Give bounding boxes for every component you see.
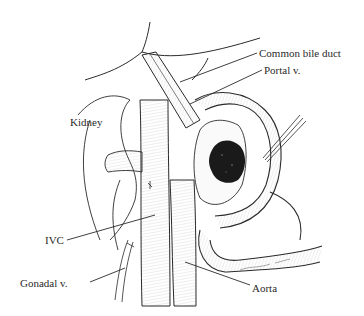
anatomical-diagram: Common bile duct Portal v. Kidney IVC Go… [0, 0, 364, 316]
label-common-bile-duct: Common bile duct [259, 47, 341, 59]
label-aorta: Aorta [252, 282, 277, 294]
liver-edge [85, 22, 260, 80]
ivc [140, 100, 170, 306]
label-kidney: Kidney [70, 116, 102, 128]
label-ivc: IVC [45, 234, 64, 246]
label-portal-vein: Portal v. [264, 64, 301, 76]
aorta [170, 180, 196, 306]
label-gonadal-vein: Gonadal v. [20, 277, 68, 289]
renal-vein [105, 151, 142, 172]
